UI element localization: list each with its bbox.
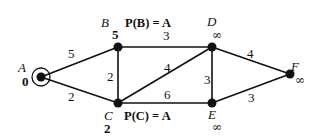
- node-d-label: D: [206, 14, 217, 29]
- weight-c-e: 6: [164, 87, 171, 102]
- weight-a-c: 2: [68, 89, 75, 104]
- weight-d-f: 4: [247, 46, 254, 61]
- node-a-label: A: [17, 60, 26, 75]
- node-f-label: F: [290, 59, 300, 74]
- node-b: [114, 43, 123, 52]
- weight-b-c: 2: [107, 69, 114, 84]
- node-c-distance: 2: [104, 121, 111, 136]
- weight-b-d: 3: [163, 28, 170, 43]
- predecessor-c-annotation: P(C) = A: [124, 109, 171, 123]
- weight-a-b: 5: [68, 46, 75, 61]
- node-e-distance: ∞: [212, 120, 222, 134]
- predecessor-b-annotation: P(B) = A: [125, 16, 171, 30]
- weight-c-d: 4: [164, 60, 171, 75]
- node-d-distance: ∞: [212, 28, 222, 42]
- node-a: [37, 73, 46, 82]
- graph-diagram: 5 2 2 3 4 6 3 4 3 A B C D E F 0 5 2 ∞ ∞ …: [0, 0, 320, 139]
- weight-e-f: 3: [248, 90, 255, 105]
- node-b-distance: 5: [112, 27, 119, 42]
- node-d: [208, 43, 217, 52]
- node-b-label: B: [101, 15, 109, 30]
- node-c: [114, 99, 123, 108]
- weight-d-e: 3: [204, 72, 211, 87]
- node-f-distance: ∞: [295, 73, 305, 87]
- node-a-distance: 0: [22, 74, 29, 89]
